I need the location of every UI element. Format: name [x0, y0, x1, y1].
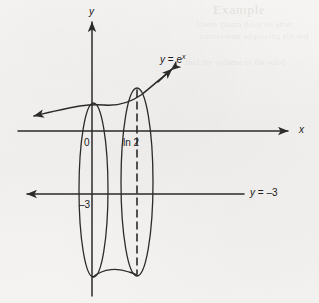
origin-tick-label: 0	[84, 137, 90, 148]
exponential-curve-upper-arrow	[158, 69, 172, 82]
upper-bound-tick-label: ln 2	[123, 137, 139, 148]
exponential-curve	[34, 70, 171, 116]
figure-drawing	[0, 0, 319, 303]
curve-label-exponent: x	[182, 53, 186, 60]
curve-label-equals: = e	[165, 54, 182, 65]
y-axis-label: y	[89, 6, 94, 17]
axis-of-revolution-label: y = –3	[250, 187, 278, 198]
x-axis-label: x	[299, 124, 304, 135]
asymptote-label-value: = –3	[255, 187, 278, 198]
negative-three-tick-label: –3	[79, 199, 90, 210]
figure-container: Example lorem ipsum dolor sit amet conse…	[0, 0, 319, 303]
curve-equation-label: y = ex	[160, 53, 185, 65]
disc-cross-section-at-zero	[79, 103, 108, 277]
